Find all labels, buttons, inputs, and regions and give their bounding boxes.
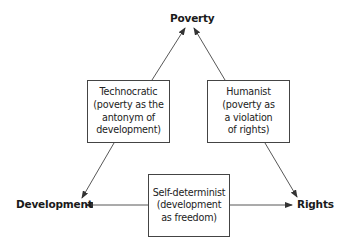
box-self-determinist-line: Self-determinist bbox=[153, 187, 226, 200]
box-technocratic-line: development) bbox=[96, 124, 161, 137]
box-humanist-line: (poverty as bbox=[222, 99, 274, 112]
node-rights: Rights bbox=[297, 198, 334, 210]
arrow-technocratic-to-poverty bbox=[152, 28, 185, 80]
box-self-determinist-line: (development bbox=[157, 199, 222, 212]
arrow-technocratic-to-development bbox=[82, 143, 114, 198]
box-self-determinist: Self-determinist (development as freedom… bbox=[148, 174, 230, 237]
box-technocratic-line: (poverty as the bbox=[93, 99, 163, 112]
box-humanist-line: of rights) bbox=[228, 124, 270, 137]
box-technocratic-line: antonym of bbox=[102, 112, 155, 125]
node-poverty: Poverty bbox=[170, 12, 215, 24]
box-technocratic: Technocratic (poverty as the antonym of … bbox=[87, 80, 170, 143]
arrow-humanist-to-rights bbox=[265, 143, 297, 197]
box-humanist: Humanist (poverty as a violation of righ… bbox=[207, 80, 290, 143]
box-self-determinist-line: as freedom) bbox=[161, 212, 217, 225]
box-technocratic-line: Technocratic bbox=[100, 86, 158, 99]
box-humanist-line: Humanist bbox=[226, 86, 270, 99]
node-development: Development bbox=[16, 198, 93, 210]
box-humanist-line: a violation bbox=[225, 112, 273, 125]
arrow-humanist-to-poverty bbox=[194, 28, 225, 80]
